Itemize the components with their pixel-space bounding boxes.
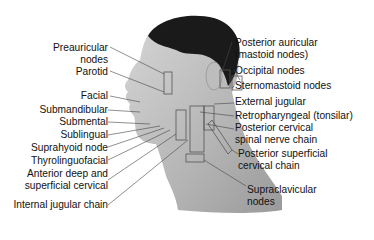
- label-facial: Facial: [81, 90, 108, 102]
- label-line: Posterior cervical: [235, 122, 317, 134]
- label-line: spinal nerve chain: [235, 134, 317, 146]
- label-line: Supraclavicular: [247, 184, 317, 196]
- label-line: Preauricular: [53, 42, 108, 54]
- label-preauricular-nodes: Preauricular nodes: [53, 42, 108, 65]
- label-parotid: Parotid: [76, 66, 108, 78]
- label-line: superficial cervical: [25, 180, 108, 192]
- label-sternomastoid-nodes: Sternomastoid nodes: [235, 80, 331, 92]
- label-line: nodes: [247, 196, 317, 208]
- label-anterior-deep-superficial-cervical: Anterior deep and superficial cervical: [25, 168, 108, 191]
- label-internal-jugular-chain: Internal jugular chain: [13, 199, 108, 211]
- label-external-jugular: External jugular: [235, 96, 306, 108]
- label-submental: Submental: [59, 116, 108, 128]
- label-line: nodes: [53, 54, 108, 66]
- label-line: (mastoid nodes): [235, 49, 318, 61]
- label-line: Posterior superficial: [238, 148, 327, 160]
- label-occipital-nodes: Occipital nodes: [235, 65, 305, 77]
- label-suprahyoid-node: Suprahyoid node: [31, 142, 108, 154]
- label-posterior-superficial-cervical-chain: Posterior superficial cervical chain: [238, 148, 327, 171]
- label-posterior-auricular: Posterior auricular (mastoid nodes): [235, 37, 318, 60]
- label-thyrolinguofacial: Thyrolinguofacial: [31, 155, 108, 167]
- label-line: cervical chain: [238, 160, 327, 172]
- label-submandibular: Submandibular: [39, 104, 108, 116]
- label-sublingual: Sublingual: [60, 129, 108, 141]
- label-line: Posterior auricular: [235, 37, 318, 49]
- label-line: Anterior deep and: [25, 168, 108, 180]
- label-posterior-cervical-spinal-nerve-chain: Posterior cervical spinal nerve chain: [235, 122, 317, 145]
- label-supraclavicular-nodes: Supraclavicular nodes: [247, 184, 317, 207]
- label-retropharyngeal: Retropharyngeal (tonsilar): [235, 110, 353, 122]
